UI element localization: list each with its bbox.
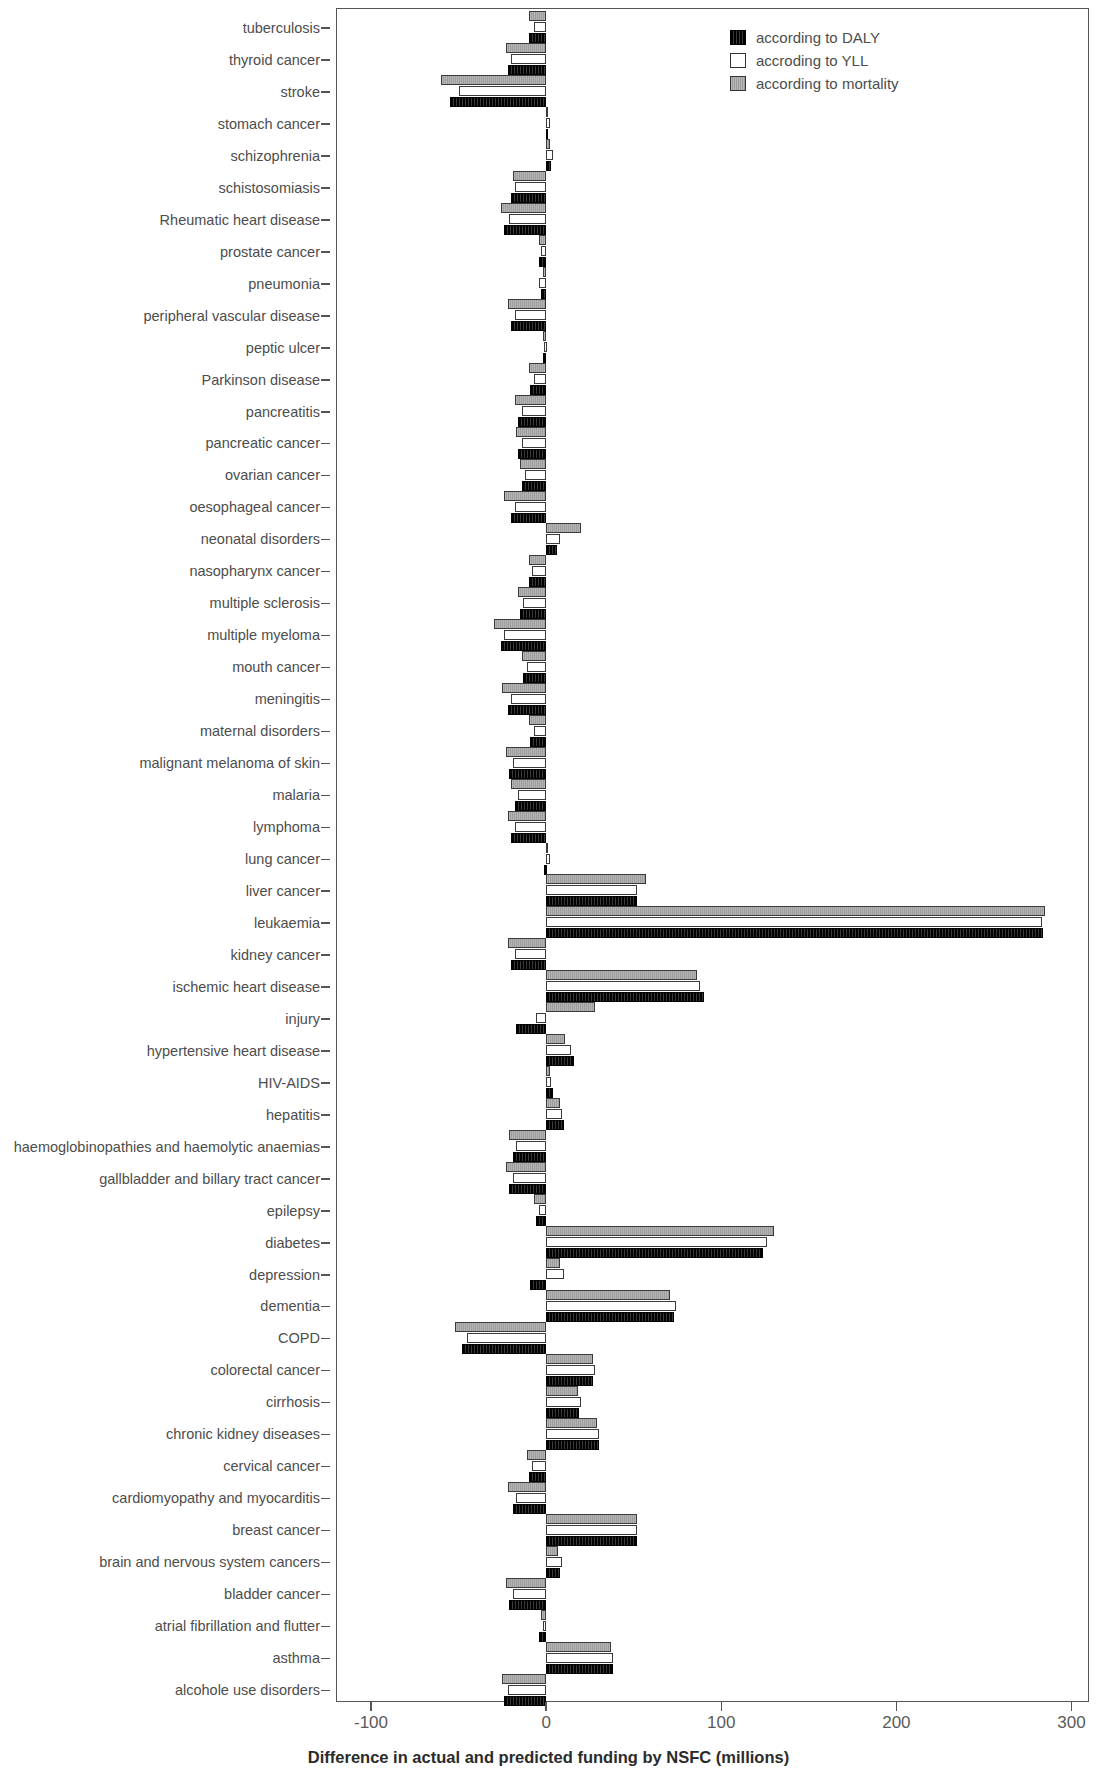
bar-group [336, 75, 1089, 108]
bar-daly [546, 161, 551, 171]
bar-yll [513, 1173, 546, 1183]
bar-yll [546, 1653, 613, 1663]
y-axis-tick-mark [321, 1274, 330, 1276]
bar-mortality [516, 427, 546, 437]
y-axis-tick-mark [321, 1146, 330, 1148]
y-axis-tick-label: lymphoma [253, 820, 330, 834]
bar-mortality [546, 970, 697, 980]
bar-group [336, 1514, 1089, 1547]
x-axis-tick-label: 200 [882, 1713, 910, 1733]
y-axis-tick-label: ovarian cancer [225, 468, 330, 482]
bar-yll [544, 342, 546, 352]
y-axis-tick-label: leukaemia [254, 916, 330, 930]
bar-yll [522, 406, 547, 416]
bar-yll [525, 470, 546, 480]
legend-label-mortality: according to mortality [756, 75, 899, 92]
bar-mortality [518, 587, 546, 597]
bar-daly [511, 513, 546, 523]
x-axis-tick-label: 100 [707, 1713, 735, 1733]
bar-group [336, 427, 1089, 460]
y-axis-tick-label: brain and nervous system cancers [99, 1555, 330, 1569]
bar-yll [546, 1557, 562, 1567]
y-axis-tick-label: haemoglobinopathies and haemolytic anaem… [14, 1140, 330, 1154]
bar-mortality [546, 1354, 593, 1364]
bar-mortality [546, 1034, 565, 1044]
y-axis-tick-label: breast cancer [232, 1523, 330, 1537]
bar-daly [546, 1056, 574, 1066]
y-axis-tick-mark [321, 571, 330, 573]
y-axis-tick-label: nasopharynx cancer [189, 564, 330, 578]
bar-mortality [546, 1642, 611, 1652]
y-axis-tick-mark [321, 859, 330, 861]
bar-yll [534, 22, 546, 32]
bar-daly [544, 865, 546, 875]
bar-yll [523, 598, 546, 608]
bar-group [336, 523, 1089, 556]
y-axis-tick-mark [321, 827, 330, 829]
y-axis-tick-mark [321, 954, 330, 956]
bar-group [336, 1162, 1089, 1195]
bar-yll [516, 1493, 546, 1503]
bar-daly [509, 1184, 546, 1194]
bar-yll [543, 1621, 547, 1631]
bar-mortality [546, 1386, 578, 1396]
y-axis-tick-mark [321, 1050, 330, 1052]
bar-mortality [506, 1162, 546, 1172]
bar-daly [546, 1408, 579, 1418]
bar-mortality [504, 491, 546, 501]
bar-mortality [508, 938, 547, 948]
bar-yll [546, 885, 637, 895]
y-axis-tick-mark [321, 187, 330, 189]
y-axis-tick-label: schizophrenia [231, 149, 330, 163]
bar-group [336, 1002, 1089, 1035]
y-axis-tick-mark [321, 347, 330, 349]
y-axis-tick-mark [321, 475, 330, 477]
bar-group [336, 1610, 1089, 1643]
bar-group [336, 779, 1089, 812]
bar-mortality [529, 11, 547, 21]
y-axis-tick-mark [321, 539, 330, 541]
bar-mortality [502, 1674, 546, 1684]
bar-group [336, 1098, 1089, 1131]
bar-group [336, 651, 1089, 684]
legend-label-yll: accroding to YLL [756, 52, 868, 69]
bar-daly [504, 225, 546, 235]
y-axis-tick-label: dementia [260, 1299, 330, 1313]
bar-yll [467, 1333, 546, 1343]
y-axis-tick-mark [321, 1562, 330, 1564]
x-axis-tick-label: -100 [354, 1713, 388, 1733]
y-axis-tick-mark [321, 763, 330, 765]
y-axis-labels: tuberculosisthyroid cancerstrokestomach … [0, 8, 330, 1702]
bar-group [336, 1226, 1089, 1259]
bar-yll [504, 630, 546, 640]
bar-daly [530, 385, 546, 395]
bar-group [336, 1258, 1089, 1291]
bar-mortality [494, 619, 547, 629]
bar-daly [511, 960, 546, 970]
bar-group [336, 43, 1089, 76]
bar-yll [516, 1141, 546, 1151]
bar-group [336, 747, 1089, 780]
bar-yll [522, 438, 547, 448]
y-axis-tick-label: malignant melanoma of skin [139, 756, 330, 770]
y-axis-tick-mark [321, 1082, 330, 1084]
bar-group [336, 267, 1089, 300]
bar-group [336, 107, 1089, 140]
y-axis-tick-label: colorectal cancer [210, 1363, 330, 1377]
bar-group [336, 139, 1089, 172]
y-axis-tick-label: maternal disorders [200, 724, 330, 738]
legend-label-daly: according to DALY [756, 29, 880, 46]
bar-group [336, 1418, 1089, 1451]
y-axis-tick-label: liver cancer [246, 884, 330, 898]
bar-daly [529, 33, 547, 43]
bar-group [336, 1322, 1089, 1355]
bar-group [336, 1578, 1089, 1611]
bar-group [336, 715, 1089, 748]
bar-yll [546, 854, 550, 864]
chart-figure: tuberculosisthyroid cancerstrokestomach … [0, 0, 1097, 1776]
y-axis-tick-label: ischemic heart disease [173, 980, 331, 994]
bar-daly [530, 737, 546, 747]
bar-daly [541, 289, 546, 299]
y-axis-tick-mark [321, 1018, 330, 1020]
bar-mortality [546, 107, 548, 117]
